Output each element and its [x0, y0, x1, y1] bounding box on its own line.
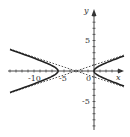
y-axis-label: y — [83, 6, 89, 15]
x-tick-label-neg5: -5 — [59, 74, 67, 83]
y-tick-label-5: 5 — [85, 36, 90, 45]
origin-label: 0 — [86, 74, 91, 83]
hyperbola-plot: x y -10 -5 0 5 -5 — [0, 0, 130, 137]
x-axis-label: x — [116, 73, 121, 82]
x-tick-label-neg10: -10 — [28, 74, 41, 83]
y-tick-label-neg5: -5 — [82, 97, 90, 106]
y-axis-arrow-icon — [92, 9, 97, 16]
x-axis — [8, 69, 124, 74]
